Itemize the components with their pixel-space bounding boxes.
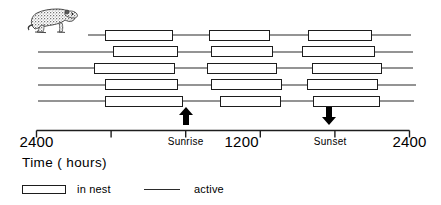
in-nest-box (307, 79, 378, 90)
in-nest-box (211, 46, 273, 57)
in-nest-box (220, 96, 281, 107)
sunrise-arrow-up-icon (177, 106, 195, 126)
actogram-plot-area (0, 0, 441, 120)
in-nest-box (207, 63, 277, 74)
in-nest-box (94, 63, 175, 74)
x-axis-tick-label: 2400 (370, 134, 441, 150)
x-axis-title: Time ( hours) (22, 155, 107, 170)
legend-swatch-box-icon (22, 185, 66, 194)
legend-label-active: active (194, 181, 224, 197)
in-nest-box (209, 30, 270, 41)
sunset-arrow-down-icon (320, 106, 338, 126)
x-axis-tick-labels: 2400Sunrise1200Sunset2400 (0, 134, 441, 152)
actogram-row (0, 94, 441, 108)
legend-label-in-nest: in nest (77, 181, 111, 197)
in-nest-box (211, 79, 282, 90)
in-nest-box (308, 30, 372, 41)
actogram-row (0, 28, 441, 42)
actogram-row (0, 61, 441, 75)
x-axis-tick-label: 1200 (202, 134, 282, 150)
in-nest-box (105, 96, 183, 107)
in-nest-box (113, 46, 178, 57)
in-nest-box (105, 30, 173, 41)
actogram-figure: 2400Sunrise1200Sunset2400 Time ( hours) … (0, 0, 441, 205)
actogram-row (0, 78, 441, 92)
x-axis-tick-label: Sunset (290, 134, 370, 150)
legend-swatch-line-icon (144, 189, 180, 190)
in-nest-box (312, 63, 382, 74)
in-nest-box (302, 46, 375, 57)
x-axis-tick-label: 2400 (0, 134, 77, 150)
in-nest-box (105, 79, 178, 90)
actogram-row (0, 45, 441, 59)
in-nest-box (313, 96, 380, 107)
